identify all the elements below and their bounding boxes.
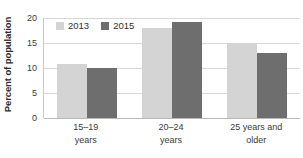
- bar-group: [142, 18, 202, 118]
- y-axis-title: Percent of population: [0, 0, 16, 128]
- legend-label: 2015: [113, 21, 134, 31]
- plot-area: 20132015: [43, 18, 300, 118]
- y-axis-tick-label: 0: [32, 114, 37, 123]
- bar-2015-1: [172, 22, 202, 118]
- legend-swatch-2015: [101, 22, 109, 30]
- x-axis-tick-label: 20–24 years: [126, 121, 216, 146]
- y-axis-tick-label: 10: [27, 64, 37, 73]
- axis-baseline: [44, 118, 300, 119]
- y-axis-tick-label: 20: [27, 14, 37, 23]
- bar-group: [57, 18, 117, 118]
- legend-swatch-2013: [56, 22, 64, 30]
- bar-2015-0: [87, 68, 117, 118]
- x-axis-tick-labels: 15–19 years20–24 years25 years and older: [43, 121, 299, 158]
- bar-2015-2: [257, 53, 287, 118]
- x-axis-tick-label: 25 years and older: [211, 121, 301, 146]
- y-axis-tick-label: 15: [27, 39, 37, 48]
- chart-legend: 20132015: [56, 21, 134, 31]
- legend-item: 2015: [101, 21, 134, 31]
- bar-2013-2: [227, 43, 257, 118]
- y-axis-tick-label: 5: [32, 89, 37, 98]
- bar-chart-figure: Percent of population 05101520 20132015 …: [0, 0, 303, 158]
- legend-item: 2013: [56, 21, 89, 31]
- y-axis-title-text: Percent of population: [3, 16, 14, 112]
- bar-group: [227, 18, 287, 118]
- legend-label: 2013: [68, 21, 89, 31]
- bar-2013-0: [57, 64, 87, 118]
- bars-layer: [44, 18, 300, 118]
- y-axis-tick-labels: 05101520: [16, 12, 40, 124]
- x-axis-tick-label: 15–19 years: [41, 121, 131, 146]
- bar-2013-1: [142, 28, 172, 119]
